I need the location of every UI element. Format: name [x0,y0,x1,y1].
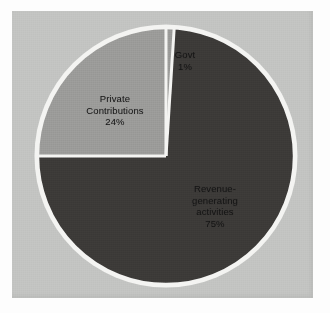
chart-panel: Revenue- generating activities 75% Priva… [12,11,313,298]
slice-value-private-contributions: 24% [57,116,173,128]
slice-label-private-contributions: Private Contributions 24% [57,93,173,128]
slice-label-line-2: Contributions [57,105,173,117]
slice-label-revenue-generating-activities: Revenue- generating activities 75% [160,183,270,229]
pie-chart: Revenue- generating activities 75% Priva… [12,11,313,298]
slice-label-line-3: activities [160,206,270,218]
slice-label-govt: Govt 1% [130,49,240,72]
slice-label-line-1: Revenue- [160,183,270,195]
slice-label-line-2: generating [160,195,270,207]
pie-slice-private-contributions[interactable] [38,28,167,157]
figure-container: Revenue- generating activities 75% Priva… [0,0,330,313]
slice-value-govt: 1% [130,61,240,73]
slice-value-revenue-generating-activities: 75% [160,218,270,230]
slice-label-line-1: Govt [130,49,240,61]
slice-label-line-1: Private [57,93,173,105]
